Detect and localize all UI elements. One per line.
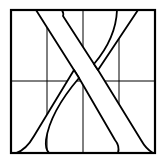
thin-diagonal-upper-stroke bbox=[94, 10, 138, 70]
diagram-svg bbox=[0, 0, 165, 167]
letter-x-construction-diagram: X bbox=[0, 0, 165, 167]
